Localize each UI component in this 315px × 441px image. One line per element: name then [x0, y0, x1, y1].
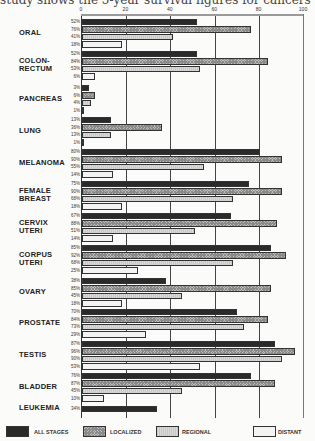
bar-row: 87%: [0, 340, 315, 347]
legend-label: REGIONAL: [182, 429, 211, 435]
bar-row: 88%: [0, 220, 315, 227]
percent-label: 1%: [62, 139, 80, 146]
percent-label: 87%: [62, 380, 80, 387]
percent-label: 25%: [62, 267, 80, 274]
bar-row: 85%: [0, 244, 315, 251]
bar-regional: [82, 228, 195, 235]
bar-distant: [82, 107, 84, 114]
percent-label: 6%: [62, 73, 80, 80]
percent-label: 41%: [62, 33, 80, 40]
bar-row: 80%: [0, 148, 315, 155]
percent-label: 70%: [62, 308, 80, 315]
bar-all-stages: [82, 341, 275, 348]
bar-row: 13%: [0, 116, 315, 123]
percent-label: 68%: [62, 195, 80, 202]
bar-distant: [82, 395, 104, 402]
bar-localized: [82, 156, 282, 163]
percent-label: 38%: [62, 277, 80, 284]
bar-row: 52%: [0, 50, 315, 57]
bar-localized: [82, 316, 268, 323]
bar-row: 3%: [0, 84, 315, 91]
bar-localized: [82, 124, 162, 131]
bar-row: 36%: [0, 124, 315, 131]
percent-label: 13%: [62, 116, 80, 123]
bar-row: 6%: [0, 73, 315, 80]
legend-swatch: [253, 426, 276, 437]
bar-regional: [82, 293, 182, 300]
x-tick: 20: [123, 6, 129, 12]
bar-row: 84%: [0, 58, 315, 65]
bar-distant: [82, 363, 200, 370]
percent-label: 45%: [62, 292, 80, 299]
bar-regional: [82, 356, 282, 363]
bar-regional: [82, 132, 111, 139]
bar-row: 76%: [0, 26, 315, 33]
percent-label: 52%: [62, 18, 80, 25]
bar-all-stages: [82, 181, 249, 188]
percent-label: 14%: [62, 235, 80, 242]
x-tick: 80: [256, 6, 262, 12]
legend: ALL STAGES LOCALIZED REGIONAL DISTANT: [0, 424, 315, 438]
bar-all-stages: [82, 245, 271, 252]
percent-label: 85%: [62, 285, 80, 292]
percent-label: 84%: [62, 316, 80, 323]
percent-label: 55%: [62, 163, 80, 170]
percent-label: 18%: [62, 203, 80, 210]
percent-label: 92%: [62, 252, 80, 259]
percent-label: 18%: [62, 41, 80, 48]
bar-row: 90%: [0, 156, 315, 163]
percent-label: 76%: [62, 26, 80, 33]
percent-label: 1%: [62, 107, 80, 114]
x-tick: 40: [167, 6, 173, 12]
percent-label: 68%: [62, 259, 80, 266]
percent-label: 4%: [62, 99, 80, 106]
bar-distant: [82, 171, 113, 178]
legend-label: ALL STAGES: [34, 429, 68, 435]
bar-all-stages: [82, 309, 237, 316]
percent-label: 29%: [62, 331, 80, 338]
bar-row: 25%: [0, 267, 315, 274]
bar-row: 4%: [0, 99, 315, 106]
bar-row: 53%: [0, 363, 315, 370]
bar-row: 29%: [0, 331, 315, 338]
percent-label: 80%: [62, 148, 80, 155]
percent-label: 90%: [62, 188, 80, 195]
bar-regional: [82, 260, 233, 267]
bar-row: 45%: [0, 292, 315, 299]
percent-label: 76%: [62, 372, 80, 379]
bar-row: 52%: [0, 18, 315, 25]
percent-label: 34%: [62, 405, 80, 412]
bar-localized: [82, 285, 271, 292]
percent-label: 10%: [62, 395, 80, 402]
percent-label: 75%: [62, 180, 80, 187]
percent-label: 67%: [62, 212, 80, 219]
bar-distant: [82, 267, 138, 274]
bar-localized: [82, 188, 282, 195]
percent-label: 90%: [62, 355, 80, 362]
bar-row: 76%: [0, 372, 315, 379]
percent-label: 85%: [62, 244, 80, 251]
bar-row: 75%: [0, 180, 315, 187]
bar-regional: [82, 388, 182, 395]
bar-localized: [82, 380, 275, 387]
percent-label: 52%: [62, 50, 80, 57]
percent-label: 53%: [62, 65, 80, 72]
percent-label: 73%: [62, 323, 80, 330]
bar-localized: [82, 58, 268, 65]
bar-all-stages: [82, 213, 231, 220]
bar-row: 18%: [0, 300, 315, 307]
bar-localized: [82, 220, 277, 227]
percent-label: 90%: [62, 156, 80, 163]
legend-label: DISTANT: [278, 429, 301, 435]
bar-localized: [82, 348, 295, 355]
bar-distant: [82, 331, 146, 338]
bar-row: 18%: [0, 203, 315, 210]
percent-label: 84%: [62, 58, 80, 65]
bar-row: 85%: [0, 285, 315, 292]
bar-row: 67%: [0, 212, 315, 219]
bar-distant: [82, 139, 84, 146]
bar-row: 70%: [0, 308, 315, 315]
bar-regional: [82, 196, 233, 203]
axis-top-line: [81, 14, 303, 16]
bar-localized: [82, 252, 286, 259]
